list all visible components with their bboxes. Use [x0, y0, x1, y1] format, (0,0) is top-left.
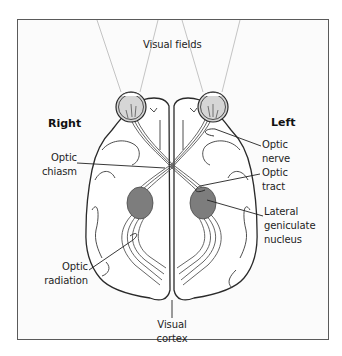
- optic-radiation-label: Optic radiation: [40, 260, 88, 288]
- visual-cortex-label: Visual cortex: [152, 318, 192, 346]
- optic-nerve-label: Optic nerve: [262, 138, 290, 166]
- optic-chiasm-label: Optic chiasm: [40, 151, 77, 179]
- right-eye: [116, 92, 146, 122]
- left-side-label: Left: [271, 116, 296, 129]
- right-side-label: Right: [48, 117, 81, 130]
- optic-tract-label: Optic tract: [262, 166, 288, 194]
- left-lgn: [127, 187, 153, 219]
- right-lgn: [190, 187, 216, 219]
- visual-field-lines: [97, 20, 240, 92]
- left-eye: [198, 92, 228, 122]
- brain-outline: [86, 98, 257, 300]
- visual-fields-label: Visual fields: [143, 38, 202, 52]
- lateral-geniculate-nucleus-label: Lateral geniculate nucleus: [264, 205, 315, 247]
